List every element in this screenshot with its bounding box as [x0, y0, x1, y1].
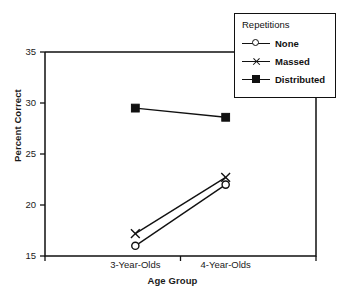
data-point-none — [222, 181, 229, 188]
data-point-distributed — [131, 104, 139, 112]
series-line-distributed — [135, 108, 225, 117]
legend-key-massed-icon — [242, 53, 270, 69]
x-axis-title: Age Group — [0, 275, 345, 286]
legend-item-massed: Massed — [242, 52, 335, 70]
data-point-distributed — [222, 113, 230, 121]
legend-label-none: None — [275, 38, 299, 49]
legend-item-distributed: Distributed — [242, 70, 335, 88]
series-line-massed — [135, 177, 225, 233]
y-tick-label: 30 — [14, 98, 36, 108]
legend-key-none-icon — [242, 35, 270, 51]
figure: Percent Correct 1520253035 3-Year-Olds4-… — [0, 0, 345, 307]
y-axis-title: Percent Correct — [12, 71, 23, 181]
legend-key-distributed-icon — [242, 71, 270, 87]
y-tick-label: 25 — [14, 149, 36, 159]
legend: Repetitions None Massed Distributed — [234, 13, 336, 98]
y-tick-label: 35 — [14, 47, 36, 57]
series-line-none — [135, 185, 225, 246]
legend-label-massed: Massed — [275, 56, 310, 67]
y-tick-label: 20 — [14, 200, 36, 210]
y-tick-label: 15 — [14, 251, 36, 261]
data-point-massed — [131, 229, 140, 238]
legend-label-distributed: Distributed — [275, 74, 325, 85]
data-point-none — [132, 242, 139, 249]
legend-title: Repetitions — [242, 19, 335, 31]
x-tick-label: 3-Year-Olds — [90, 259, 180, 270]
x-tick-label: 4-Year-Olds — [181, 259, 271, 270]
legend-item-none: None — [242, 34, 335, 52]
